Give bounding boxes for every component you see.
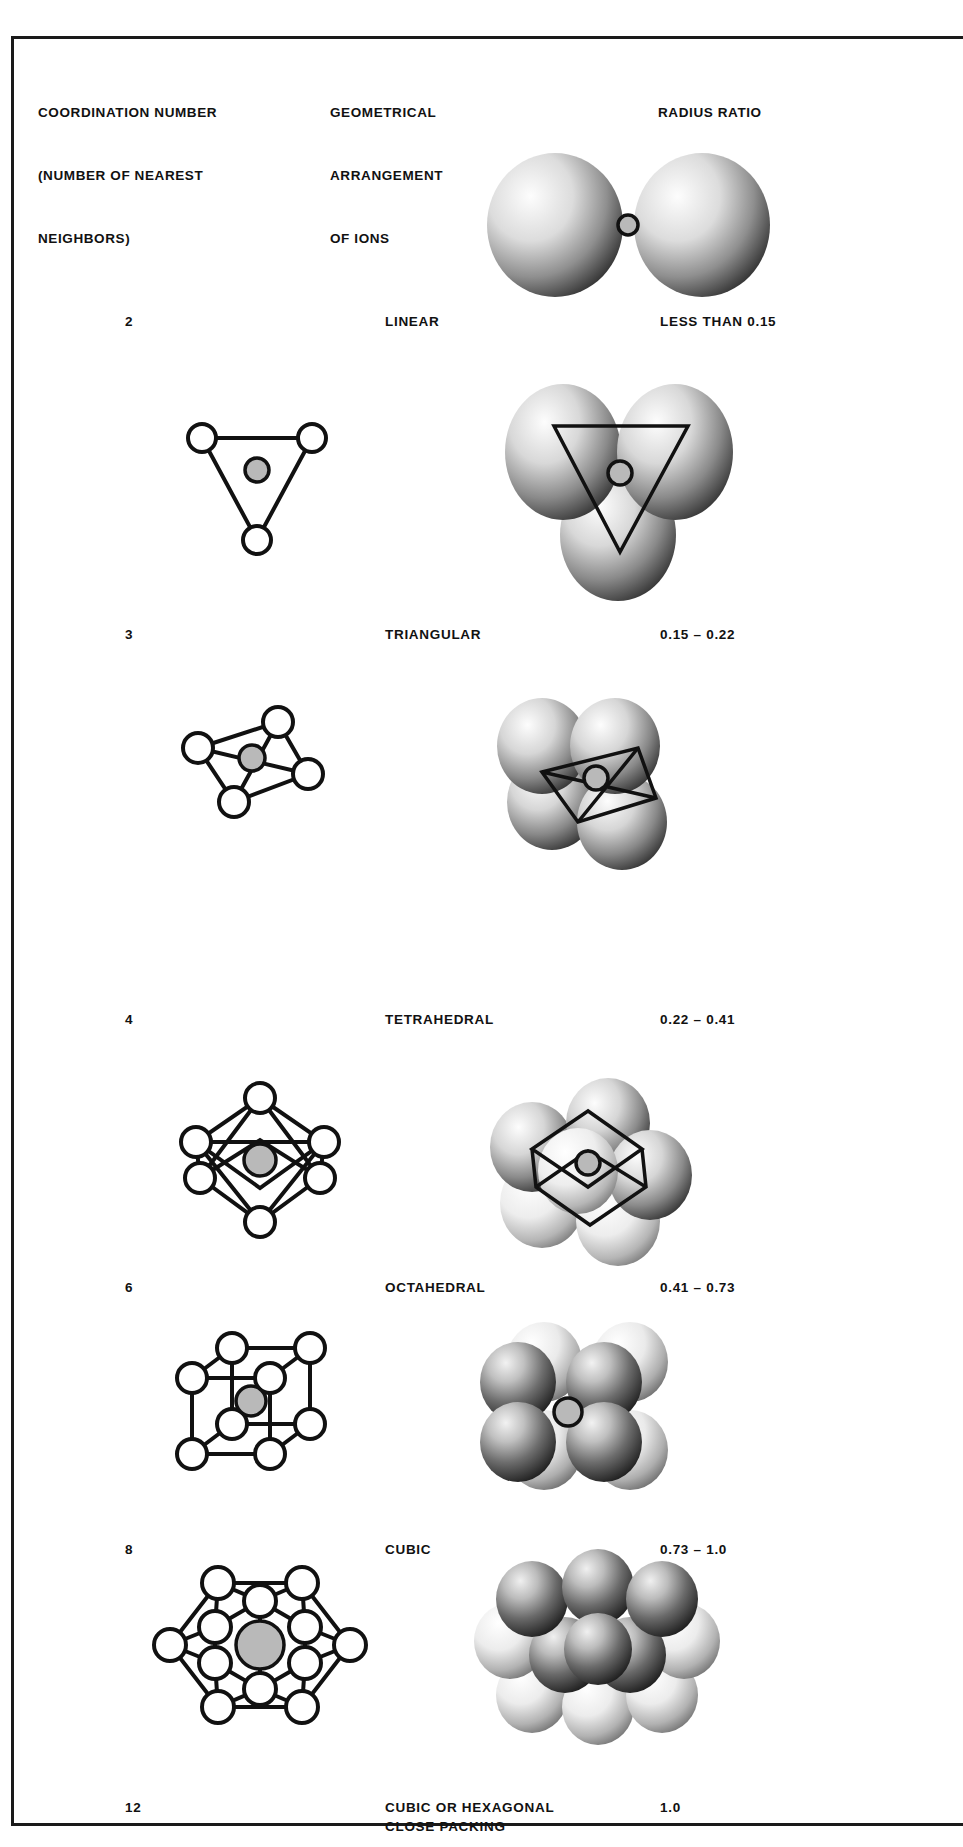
- packing-illustration-triangular: [470, 380, 800, 610]
- vertex-ion: [295, 1333, 325, 1363]
- vertex-ion: [289, 1611, 321, 1643]
- vertex-ion: [244, 1585, 276, 1617]
- center-ion: [245, 458, 269, 482]
- center-ion: [584, 766, 608, 790]
- cell-radius-ratio: 0.22 – 0.41: [660, 1010, 910, 1029]
- anion-sphere: [487, 153, 623, 297]
- cell-arrangement-name: OCTAHEDRAL: [385, 1278, 685, 1297]
- anion-sphere: [480, 1402, 556, 1482]
- vertex-ion: [286, 1691, 318, 1723]
- vertex-ion: [199, 1611, 231, 1643]
- vertex-ion: [244, 1673, 276, 1705]
- cell-radius-ratio: LESS THAN 0.15: [660, 312, 910, 331]
- vertex-ion: [177, 1363, 207, 1393]
- anion-sphere: [496, 1561, 568, 1637]
- header-geometry-line-1: GEOMETRICAL: [330, 102, 443, 123]
- center-ion: [576, 1151, 600, 1175]
- header-coordination-line-1: COORDINATION NUMBER: [38, 102, 217, 123]
- cell-coordination-number: 4: [125, 1010, 205, 1029]
- cell-radius-ratio: 1.0: [660, 1798, 910, 1817]
- anion-sphere: [626, 1561, 698, 1637]
- cell-arrangement-name: CUBIC OR HEXAGONAL CLOSE PACKING: [385, 1798, 685, 1836]
- cell-coordination-number: 12: [125, 1798, 205, 1817]
- header-ratio-line-1: RADIUS RATIO: [658, 102, 762, 123]
- vertex-ion: [199, 1647, 231, 1679]
- vertex-ion: [295, 1409, 325, 1439]
- cation-center-ion: [618, 215, 638, 235]
- wireframe-illustration-triangular: [160, 410, 490, 570]
- vertex-ion: [289, 1647, 321, 1679]
- column-headers: COORDINATION NUMBER (NUMBER OF NEAREST N…: [0, 60, 963, 140]
- center-ion: [554, 1398, 582, 1426]
- vertex-ion: [293, 759, 323, 789]
- table-row-octahedral: 6 OCTAHEDRAL 0.41 – 0.73: [0, 1080, 963, 1300]
- vertex-ion: [255, 1439, 285, 1469]
- vertex-ion: [334, 1629, 366, 1661]
- anion-sphere: [505, 384, 621, 520]
- vertex-ion: [181, 1127, 211, 1157]
- vertex-ion: [183, 733, 213, 763]
- packing-illustration-cubic: [470, 1310, 800, 1510]
- anion-sphere: [634, 153, 770, 297]
- center-ion: [236, 1386, 266, 1416]
- vertex-ion: [202, 1567, 234, 1599]
- table-row-close-packing: 12 CUBIC OR HEXAGONAL CLOSE PACKING 1.0: [0, 1545, 963, 1815]
- packing-illustration-octahedral: [470, 1075, 800, 1275]
- center-ion: [236, 1621, 284, 1669]
- vertex-ion: [185, 1163, 215, 1193]
- table-row-linear: 2 LINEAR LESS THAN 0.15: [0, 150, 963, 340]
- vertex-ion: [154, 1629, 186, 1661]
- cell-radius-ratio: 0.15 – 0.22: [660, 625, 910, 644]
- cell-arrangement-name: LINEAR: [385, 312, 685, 331]
- packing-illustration-tetrahedral: [470, 690, 800, 890]
- anion-sphere: [608, 1130, 692, 1220]
- vertex-ion: [245, 1207, 275, 1237]
- vertex-ion: [188, 424, 216, 452]
- center-ion: [239, 745, 265, 771]
- table-row-tetrahedral: 4 TETRAHEDRAL 0.22 – 0.41: [0, 690, 963, 920]
- vertex-ion: [243, 526, 271, 554]
- vertex-ion: [298, 424, 326, 452]
- vertex-ion: [309, 1127, 339, 1157]
- cell-arrangement-name: TRIANGULAR: [385, 625, 685, 644]
- vertex-ion: [177, 1439, 207, 1469]
- vertex-ion: [202, 1691, 234, 1723]
- vertex-ion: [217, 1333, 247, 1363]
- table-row-cubic: 8 CUBIC 0.73 – 1.0: [0, 1310, 963, 1540]
- table-row-triangular: 3 TRIANGULAR 0.15 – 0.22: [0, 380, 963, 650]
- cell-coordination-number: 2: [125, 312, 205, 331]
- cell-radius-ratio: 0.41 – 0.73: [660, 1278, 910, 1297]
- cell-coordination-number: 3: [125, 625, 205, 644]
- vertex-ion: [245, 1083, 275, 1113]
- cell-arrangement-name: TETRAHEDRAL: [385, 1010, 685, 1029]
- packing-illustration-close-packed: [470, 1545, 800, 1755]
- vertex-ion: [305, 1163, 335, 1193]
- vertex-ion: [219, 787, 249, 817]
- wireframe-illustration-cubic: [160, 1320, 490, 1490]
- cell-coordination-number: 6: [125, 1278, 205, 1297]
- center-ion: [244, 1144, 276, 1176]
- wireframe-illustration-octahedral: [160, 1080, 490, 1240]
- vertex-ion: [263, 707, 293, 737]
- wireframe-illustration-tetrahedral: [160, 700, 490, 850]
- center-ion: [608, 461, 632, 485]
- figure-page: COORDINATION NUMBER (NUMBER OF NEAREST N…: [0, 0, 963, 1847]
- packing-illustration-linear: [470, 150, 800, 300]
- wireframe-illustration-cuboctahedral: [160, 1545, 490, 1745]
- vertex-ion: [286, 1567, 318, 1599]
- anion-sphere: [564, 1613, 632, 1685]
